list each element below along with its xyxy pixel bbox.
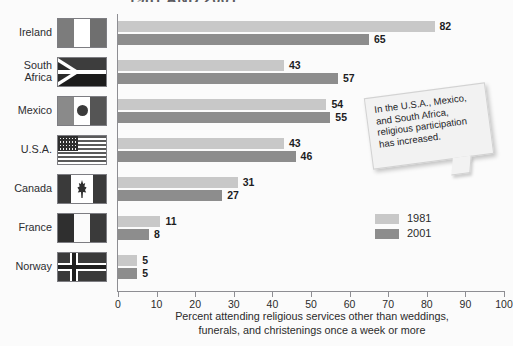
x-tick-80 xyxy=(427,292,428,297)
flag-usa-icon xyxy=(57,135,107,165)
country-label-canada: Canada xyxy=(2,183,52,195)
bar-value-label: 57 xyxy=(343,72,355,84)
country-label-part: South xyxy=(2,60,52,72)
bar-1981-mexico xyxy=(118,99,326,110)
x-tick-label-10: 10 xyxy=(151,298,163,310)
flag-mexico-icon xyxy=(57,96,107,126)
bar-2001-canada xyxy=(118,190,222,201)
country-label-part: Canada xyxy=(2,183,52,195)
x-tick-90 xyxy=(465,292,466,297)
x-tick-20 xyxy=(195,292,196,297)
bar-1981-south-africa xyxy=(118,60,284,71)
x-tick-label-20: 20 xyxy=(189,298,201,310)
country-label-mexico: Mexico xyxy=(2,105,52,117)
country-label-part: France xyxy=(2,222,52,234)
bar-value-label: 5 xyxy=(142,267,148,279)
flag-norway-icon xyxy=(57,252,107,282)
x-tick-50 xyxy=(311,292,312,297)
country-label-part: Norway xyxy=(2,261,52,273)
x-tick-label-40: 40 xyxy=(267,298,279,310)
x-tick-label-70: 70 xyxy=(382,298,394,310)
chart-row: France118 xyxy=(0,212,513,251)
country-label-part: Ireland xyxy=(2,27,52,39)
country-label-ireland: Ireland xyxy=(2,27,52,39)
chart-row: Norway55 xyxy=(0,251,513,290)
bar-2001-norway xyxy=(118,268,137,279)
legend-swatch-1981 xyxy=(375,214,399,224)
x-axis-caption: Percent attending religious services oth… xyxy=(118,310,506,337)
bar-1981-u-s-a- xyxy=(118,138,284,149)
x-axis-caption-line-1: Percent attending religious services oth… xyxy=(118,310,506,324)
x-tick-label-100: 100 xyxy=(495,298,513,310)
callout-tail xyxy=(451,156,471,176)
bar-2001-ireland xyxy=(118,34,369,45)
x-tick-60 xyxy=(350,292,351,297)
flag-canada-icon xyxy=(57,174,107,204)
bar-value-label: 43 xyxy=(289,137,301,149)
bar-2001-u-s-a- xyxy=(118,151,296,162)
x-tick-40 xyxy=(272,292,273,297)
flag-france-icon xyxy=(57,213,107,243)
x-tick-100 xyxy=(504,292,505,297)
flag-south-africa-icon xyxy=(57,57,107,87)
bar-1981-norway xyxy=(118,255,137,266)
bar-2001-france xyxy=(118,229,149,240)
x-tick-label-80: 80 xyxy=(421,298,433,310)
x-tick-label-60: 60 xyxy=(344,298,356,310)
x-axis-caption-line-2: funerals, and christenings once a week o… xyxy=(118,324,506,338)
bar-value-label: 55 xyxy=(335,111,347,123)
country-label-norway: Norway xyxy=(2,261,52,273)
country-label-part: Mexico xyxy=(2,105,52,117)
bar-value-label: 8 xyxy=(154,228,160,240)
country-label-u-s-a-: U.S.A. xyxy=(2,144,52,156)
country-label-part: Africa xyxy=(2,72,52,84)
legend-label-1981: 1981 xyxy=(407,212,431,224)
flag-ireland-icon xyxy=(57,18,107,48)
bar-1981-ireland xyxy=(118,21,435,32)
x-tick-70 xyxy=(388,292,389,297)
bar-value-label: 5 xyxy=(142,254,148,266)
country-label-part: U.S.A. xyxy=(2,144,52,156)
bar-value-label: 82 xyxy=(440,20,452,32)
x-tick-0 xyxy=(118,292,119,297)
chart-title: 1981 AND 2001 xyxy=(128,0,238,2)
country-label-france: France xyxy=(2,222,52,234)
chart-container: 1981 AND 2001 0102030405060708090100 Ire… xyxy=(0,0,513,346)
bar-value-label: 43 xyxy=(289,59,301,71)
x-tick-label-30: 30 xyxy=(228,298,240,310)
bar-value-label: 65 xyxy=(374,33,386,45)
bar-1981-france xyxy=(118,216,160,227)
x-tick-label-0: 0 xyxy=(115,298,121,310)
chart-row: Ireland8265 xyxy=(0,17,513,56)
chart-row: Canada3127 xyxy=(0,173,513,212)
x-tick-10 xyxy=(157,292,158,297)
bar-value-label: 54 xyxy=(331,98,343,110)
bar-value-label: 46 xyxy=(301,150,313,162)
country-label-south-africa: SouthAfrica xyxy=(2,60,52,83)
bar-2001-mexico xyxy=(118,112,330,123)
x-tick-label-90: 90 xyxy=(460,298,472,310)
bar-value-label: 27 xyxy=(227,189,239,201)
x-tick-label-50: 50 xyxy=(305,298,317,310)
bar-1981-canada xyxy=(118,177,238,188)
bar-2001-south-africa xyxy=(118,73,338,84)
x-tick-30 xyxy=(234,292,235,297)
bar-value-label: 31 xyxy=(243,176,255,188)
legend-swatch-2001 xyxy=(375,229,399,239)
legend-label-2001: 2001 xyxy=(407,227,431,239)
bar-value-label: 11 xyxy=(165,215,176,227)
